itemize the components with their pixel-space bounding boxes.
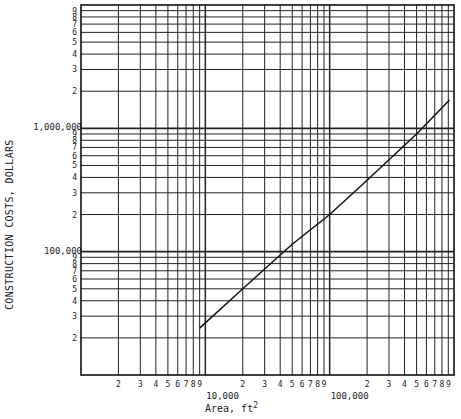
y-minor-tick-label: 5 <box>72 161 77 170</box>
x-minor-tick-label: 5 <box>165 380 170 389</box>
x-minor-tick-label: 6 <box>300 380 305 389</box>
tick-labels: 23456789234567892345678910,000100,000234… <box>33 7 451 401</box>
y-minor-tick-label: 4 <box>72 297 77 306</box>
y-minor-tick-label: 6 <box>72 28 77 37</box>
x-minor-tick-label: 6 <box>175 380 180 389</box>
y-major-tick-label: 1,000,000 <box>33 122 82 132</box>
x-minor-tick-label: 6 <box>424 380 429 389</box>
x-minor-tick-label: 7 <box>308 380 313 389</box>
x-minor-tick-label: 4 <box>402 380 407 389</box>
x-axis-label-text: Area, ft <box>205 403 253 414</box>
x-minor-tick-label: 7 <box>184 380 189 389</box>
x-major-tick-label: 100,000 <box>331 391 369 401</box>
x-major-tick-label: 10,000 <box>206 391 239 401</box>
x-minor-tick-label: 4 <box>153 380 158 389</box>
grid-lines <box>81 5 454 375</box>
log-log-chart: 23456789234567892345678910,000100,000234… <box>0 0 461 419</box>
y-minor-tick-label: 4 <box>72 50 77 59</box>
y-minor-tick-label: 2 <box>72 211 77 220</box>
x-minor-tick-label: 3 <box>138 380 143 389</box>
x-minor-tick-label: 8 <box>191 380 196 389</box>
y-minor-tick-label: 9 <box>72 7 77 16</box>
x-minor-tick-label: 9 <box>197 380 202 389</box>
y-major-tick-label: 100,000 <box>44 246 82 256</box>
y-minor-tick-label: 5 <box>72 285 77 294</box>
y-axis-label: CONSTRUCTION COSTS, DOLLARS <box>4 120 18 330</box>
y-minor-tick-label: 2 <box>72 334 77 343</box>
x-minor-tick-label: 7 <box>432 380 437 389</box>
y-minor-tick-label: 3 <box>72 312 77 321</box>
x-minor-tick-label: 9 <box>322 380 327 389</box>
y-minor-tick-label: 3 <box>72 65 77 74</box>
y-minor-tick-label: 2 <box>72 87 77 96</box>
x-minor-tick-label: 5 <box>290 380 295 389</box>
y-minor-tick-label: 6 <box>72 275 77 284</box>
y-minor-tick-label: 3 <box>72 189 77 198</box>
y-minor-tick-label: 4 <box>72 173 77 182</box>
x-axis-label-superscript: 2 <box>253 401 258 410</box>
y-minor-tick-label: 5 <box>72 38 77 47</box>
x-minor-tick-label: 8 <box>440 380 445 389</box>
x-minor-tick-label: 8 <box>315 380 320 389</box>
x-minor-tick-label: 3 <box>262 380 267 389</box>
x-axis-label: Area, ft2 <box>205 401 258 414</box>
x-minor-tick-label: 9 <box>446 380 451 389</box>
y-minor-tick-label: 6 <box>72 152 77 161</box>
x-minor-tick-label: 2 <box>365 380 370 389</box>
x-minor-tick-label: 3 <box>387 380 392 389</box>
x-minor-tick-label: 2 <box>240 380 245 389</box>
plot-frame <box>81 5 454 375</box>
x-minor-tick-label: 2 <box>116 380 121 389</box>
x-minor-tick-label: 5 <box>414 380 419 389</box>
x-minor-tick-label: 4 <box>278 380 283 389</box>
